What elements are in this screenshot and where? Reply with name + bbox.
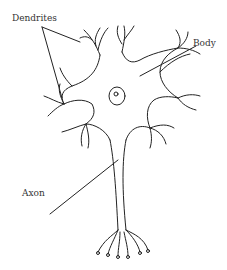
label-body: Body [193,38,216,48]
neuron-diagram: Dendrites Body Axon [0,0,227,270]
label-dendrites: Dendrites [12,13,57,23]
dendrites [44,26,200,148]
leader-lines [42,27,196,214]
label-axon: Axon [22,188,45,198]
nucleolus [114,92,118,96]
axon [97,140,150,259]
